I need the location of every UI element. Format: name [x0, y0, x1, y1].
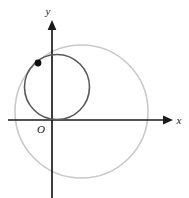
marked-point: [35, 60, 42, 67]
y-axis-label: y: [45, 5, 51, 17]
coordinate-plane-figure: y x O: [0, 0, 189, 198]
x-axis-label: x: [176, 114, 182, 126]
y-axis-arrowhead: [48, 20, 57, 30]
small-circle: [25, 55, 90, 120]
origin-label: O: [37, 123, 45, 135]
x-axis-arrowhead: [163, 116, 173, 125]
watermark-text: · · · · ·: [143, 6, 183, 15]
figure-canvas: y x O · · · · ·: [0, 0, 189, 198]
